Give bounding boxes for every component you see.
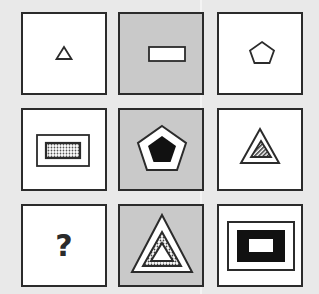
cell-r1c3 [217, 12, 303, 95]
cell-r3c2 [118, 204, 204, 287]
cell-r3c3 [217, 204, 303, 287]
triple-triangle-dotted-icon [120, 206, 202, 285]
nested-pentagon-black-icon [120, 110, 202, 189]
question-mark: ? [23, 206, 105, 285]
cell-r2c2 [118, 108, 204, 191]
cell-r1c1 [21, 12, 107, 95]
cell-r1c2 [118, 12, 204, 95]
small-pentagon-icon [219, 14, 301, 93]
triple-rectangle-black-icon [219, 206, 301, 285]
nested-triangle-hatched-icon [219, 110, 301, 189]
small-triangle-icon [23, 14, 105, 93]
cell-r2c1 [21, 108, 107, 191]
cell-r2c3 [217, 108, 303, 191]
cell-r3c1-answer: ? [21, 204, 107, 287]
nested-rectangle-dotted-icon [23, 110, 105, 189]
small-rectangle-icon [120, 14, 202, 93]
